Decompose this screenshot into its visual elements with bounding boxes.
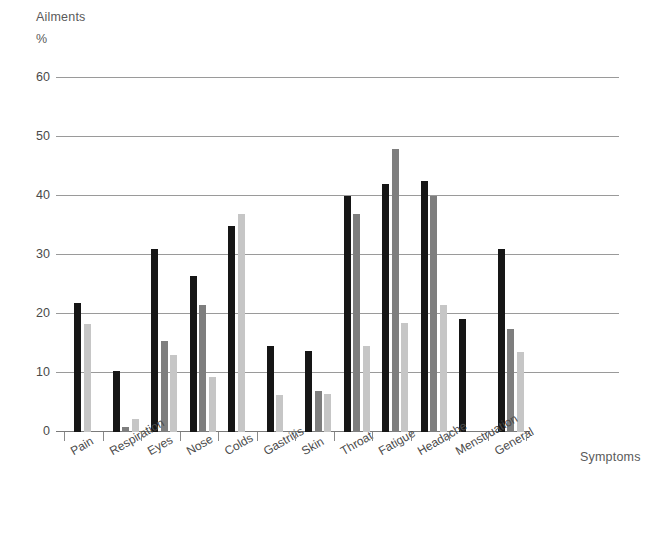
x-axis-label-skin: Skin (299, 434, 326, 458)
chart-container: Ailments % Symptoms 0102030405060 PainRe… (0, 0, 649, 535)
y-tick-label-20: 20 (36, 306, 50, 320)
x-tick-pain (64, 432, 65, 441)
x-tick-general (488, 432, 489, 441)
bar-colds-series-3 (238, 214, 245, 432)
bar-fatigue-series-3 (401, 323, 408, 432)
y-axis-unit-label: % (36, 32, 47, 46)
bar-throat-series-2 (353, 214, 360, 432)
y-tick-label-50: 50 (36, 129, 50, 143)
y-tick-label-10: 10 (36, 365, 50, 379)
x-tick-respiration (103, 432, 104, 441)
bar-respiration-series-2 (122, 427, 129, 432)
x-tick-gastritis (257, 432, 258, 441)
x-tick-throat (334, 432, 335, 441)
bar-headache-series-1 (421, 181, 428, 432)
x-axis-label-nose: Nose (184, 432, 215, 458)
bar-nose-series-2 (199, 305, 206, 432)
x-tick-headache (411, 432, 412, 441)
bar-gastritis-series-3 (276, 395, 283, 432)
y-tick-label-60: 60 (36, 70, 50, 84)
bar-gastritis-series-1 (267, 346, 274, 432)
gridline-20: 20 (56, 313, 619, 314)
x-tick-end (526, 432, 527, 441)
bar-skin-series-1 (305, 351, 312, 432)
bar-fatigue-series-2 (392, 149, 399, 432)
x-tick-skin (295, 432, 296, 441)
x-axis-label-throat: Throat (338, 429, 375, 458)
bar-nose-series-1 (190, 276, 197, 432)
bar-throat-series-1 (344, 196, 351, 432)
bar-pain-series-3 (84, 324, 91, 432)
y-tick-label-40: 40 (36, 188, 50, 202)
y-tick-label-30: 30 (36, 247, 50, 261)
bar-menstruation-series-1 (459, 319, 466, 432)
chart-title: Ailments (36, 10, 86, 24)
gridline-40: 40 (56, 195, 619, 196)
bar-pain-series-1 (74, 303, 81, 432)
x-axis-label-colds: Colds (222, 431, 256, 458)
bar-respiration-series-1 (113, 371, 120, 432)
bar-headache-series-2 (430, 196, 437, 432)
bar-skin-series-2 (315, 391, 322, 432)
x-axis-label-pain: Pain (68, 434, 96, 458)
bar-colds-series-1 (228, 226, 235, 433)
bar-eyes-series-1 (151, 249, 158, 432)
bar-nose-series-3 (209, 377, 216, 432)
bar-general-series-1 (498, 249, 505, 432)
x-axis-label: Symptoms (580, 450, 641, 464)
bar-fatigue-series-1 (382, 184, 389, 432)
y-tick-label-0: 0 (43, 424, 50, 438)
gridline-50: 50 (56, 136, 619, 137)
x-tick-menstruation (449, 432, 450, 441)
x-tick-nose (180, 432, 181, 441)
gridline-60: 60 (56, 77, 619, 78)
gridline-30: 30 (56, 254, 619, 255)
plot-area: 0102030405060 PainRespirationEyesNoseCol… (56, 78, 619, 432)
x-tick-fatigue (372, 432, 373, 441)
bar-skin-series-3 (324, 394, 331, 432)
x-tick-eyes (141, 432, 142, 441)
bar-throat-series-3 (363, 346, 370, 432)
bar-headache-series-3 (440, 305, 447, 432)
x-tick-colds (218, 432, 219, 441)
gridline-10: 10 (56, 372, 619, 373)
bar-eyes-series-3 (170, 355, 177, 432)
